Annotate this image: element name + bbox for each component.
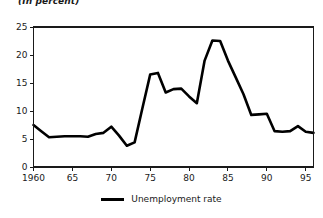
plot-frame [34,27,314,167]
chart-plot-area: 0510152025 196065707580859095 [0,0,323,218]
x-axis-tick-label: 70 [106,173,118,183]
y-axis-tick-label: 25 [16,22,27,32]
x-axis-tick-label: 80 [183,173,195,183]
series-line-unemployment-rate [34,40,314,145]
y-axis-tick-label: 15 [16,78,27,88]
x-axis-tick-label: 1960 [22,173,45,183]
x-axis-tick-label: 65 [67,173,78,183]
y-axis: 0510152025 [16,22,33,172]
x-axis-tick-label: 75 [144,173,155,183]
y-axis-tick-label: 0 [22,162,28,172]
legend-swatch-unemployment-rate [101,198,124,201]
y-axis-tick-label: 20 [16,50,28,60]
x-axis-tick-label: 85 [222,173,233,183]
chart-legend: Unemployment rate [0,194,323,204]
y-axis-tick-label: 5 [22,134,28,144]
y-axis-tick-label: 10 [16,106,28,116]
series-group [34,40,314,145]
x-axis-tick-label: 90 [261,173,273,183]
legend-label-unemployment-rate: Unemployment rate [131,194,221,204]
axis-frame [34,27,314,167]
x-axis: 196065707580859095 [22,167,311,183]
chart-figure: (In percent) 0510152025 1960657075808590… [0,0,323,218]
x-axis-tick-label: 95 [300,173,311,183]
